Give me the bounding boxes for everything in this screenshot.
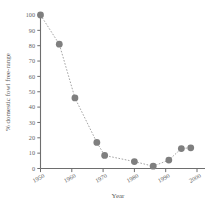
data-point-marker [178,145,185,152]
data-point-marker [72,94,79,101]
data-point-marker [56,41,63,48]
x-tick-label: 1950 [31,172,45,184]
x-tick-label: 1980 [125,172,139,184]
y-tick-label: 90 [29,27,35,34]
series-group [37,12,194,170]
x-tick-label: 1970 [94,172,108,184]
free-range-fowl-scatter-chart: 0102030405060708090100 % domestic fowl f… [0,0,217,211]
series-connector-line [41,15,191,166]
x-axis-title: Year [112,192,126,200]
y-tick-label: 20 [29,134,35,141]
y-tick-label: 60 [29,73,35,80]
data-point-marker [93,139,100,146]
y-tick-label: 80 [29,42,35,49]
data-point-marker [150,163,157,170]
chart-container: 0102030405060708090100 % domestic fowl f… [0,0,217,211]
y-tick-label: 30 [29,119,35,126]
data-point-marker [101,152,108,159]
y-tick-label: 100 [26,11,35,18]
y-tick-label: 70 [29,57,35,64]
y-tick-label: 0 [32,165,35,172]
y-axis-tick-labels: 0102030405060708090100 [26,11,35,172]
data-point-marker [187,144,194,151]
y-tick-label: 10 [29,149,35,156]
y-axis-title: % domestic fowl free-range [4,53,12,131]
data-point-marker [37,12,44,19]
series-data-markers [37,12,194,170]
y-tick-label: 40 [29,103,35,110]
y-tick-label: 50 [29,88,35,95]
x-tick-label: 2000 [188,172,202,184]
x-axis-tick-labels: 195019601970198019902000 [31,172,202,184]
x-tick-label: 1990 [156,172,170,184]
x-tick-label: 1960 [63,172,77,184]
data-point-marker [165,157,172,164]
y-axis-group: 0102030405060708090100 % domestic fowl f… [4,11,41,172]
x-axis-group: 195019601970198019902000 Year [31,169,205,201]
data-point-marker [131,158,138,165]
